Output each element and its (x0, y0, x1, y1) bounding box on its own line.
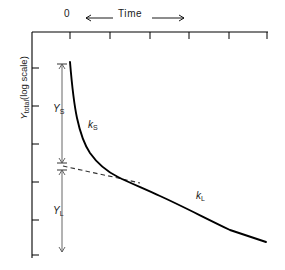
y-axis-title-suffix: (log scale) (18, 56, 29, 100)
y-axis-title-subscript: total (23, 100, 30, 113)
ks-label-subscript: S (93, 124, 98, 131)
kl-label-subscript: L (201, 195, 205, 202)
y-total-decay-curve (70, 62, 266, 242)
yl-extrapolation-dashed-line (63, 166, 140, 183)
y-axis-title: Ytotal(log scale) (18, 18, 30, 158)
yl-label-subscript: L (60, 210, 64, 217)
yl-label-base: Y (53, 205, 60, 216)
yl-amplitude-label: YL (53, 206, 64, 217)
axes-group (32, 32, 268, 258)
figure-container: 0 Time Ytotal(log scale) YS YL kS kL (0, 0, 285, 270)
chart-canvas (0, 0, 285, 270)
ys-amplitude-label: YS (53, 104, 64, 115)
ks-rate-constant-label: kS (88, 120, 98, 131)
kl-rate-constant-label: kL (196, 191, 205, 202)
x-axis-ticks (70, 32, 267, 39)
x-axis-zero-label: 0 (64, 9, 70, 19)
x-axis-title: Time (118, 9, 142, 19)
ys-label-subscript: S (60, 108, 65, 115)
ys-label-base: Y (53, 103, 60, 114)
y-axis-title-base: Y (18, 113, 29, 119)
y-axis-ticks (32, 68, 39, 255)
